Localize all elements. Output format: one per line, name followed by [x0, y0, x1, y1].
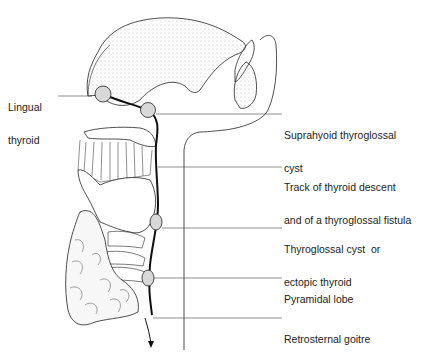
label-pyramidal-lobe: Pyramidal lobe: [284, 272, 353, 316]
vocal-region: [234, 62, 256, 108]
pyramidal-lobe-node: [142, 270, 154, 286]
label-lingual-thyroid: Lingual thyroid: [8, 80, 42, 157]
hyoid-bone: [84, 127, 156, 146]
suprahyoid-cyst-node: [141, 103, 156, 118]
lingual-thyroid-node: [95, 86, 111, 102]
thyroglossal-cyst-node: [150, 214, 162, 230]
descent-arrow: [145, 318, 151, 344]
label-retrosternal-goitre: Retrosternal goitre: [284, 312, 370, 356]
